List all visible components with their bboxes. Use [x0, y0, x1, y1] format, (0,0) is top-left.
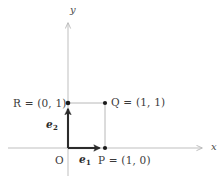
vector-e1-label: e1 — [79, 154, 91, 166]
point-Q-dot — [103, 101, 107, 105]
vector-e2-symbol: e — [46, 118, 53, 130]
point-P-label: P = (1, 0) — [98, 155, 151, 166]
y-axis-label: y — [70, 5, 76, 15]
point-P-dot — [103, 146, 107, 150]
vector-e2-subscript: 2 — [53, 123, 58, 132]
point-Q-label: Q = (1, 1) — [111, 97, 165, 108]
vector-diagram-figure: y x O R = (0, 1) Q = (1, 1) P = (1, 0) e… — [0, 0, 224, 187]
x-axis-label: x — [211, 142, 217, 152]
vector-e2-label: e2 — [46, 119, 58, 131]
origin-label: O — [55, 155, 64, 166]
vector-e1-symbol: e — [79, 153, 86, 165]
vector-e1-subscript: 1 — [86, 158, 91, 167]
point-R-label: R = (0, 1) — [13, 98, 67, 109]
